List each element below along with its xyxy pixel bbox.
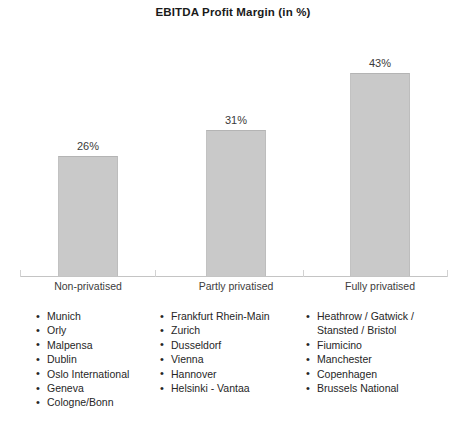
list-item: Oslo International <box>36 367 158 381</box>
list-item: Heathrow / Gatwick / Stansted / Bristol <box>306 309 454 338</box>
bar-group-partly-privatised: 31% <box>162 26 310 276</box>
x-axis-tick <box>303 270 304 277</box>
list-item: Vienna <box>160 352 302 366</box>
airport-list-fully-privatised: Heathrow / Gatwick / Stansted / Bristol … <box>306 309 454 433</box>
plot-area: 26% 31% 43% <box>0 26 466 276</box>
list-item: Munich <box>36 309 158 323</box>
x-axis-line <box>20 276 448 277</box>
list-item: Frankfurt Rhein-Main <box>160 309 302 323</box>
category-label-partly-privatised: Partly privatised <box>162 280 310 292</box>
bar-non-privatised[interactable] <box>58 156 118 276</box>
list-item: Malpensa <box>36 338 158 352</box>
category-label-fully-privatised: Fully privatised <box>306 280 454 292</box>
x-axis-tick <box>155 270 156 277</box>
list-item: Orly <box>36 323 158 337</box>
bar-group-non-privatised: 26% <box>14 26 162 276</box>
bullet-list: Frankfurt Rhein-Main Zurich Dusseldorf V… <box>160 309 302 395</box>
list-item: Geneva <box>36 381 158 395</box>
list-item: Fiumicino <box>306 338 454 352</box>
bar-partly-privatised[interactable] <box>206 130 266 276</box>
list-item: Manchester <box>306 352 454 366</box>
bar-value-label: 26% <box>48 140 128 152</box>
bar-value-label: 31% <box>196 114 276 126</box>
list-item: Copenhagen <box>306 367 454 381</box>
list-item: Cologne/Bonn <box>36 395 158 409</box>
airport-list-partly-privatised: Frankfurt Rhein-Main Zurich Dusseldorf V… <box>160 309 302 433</box>
list-item: Dublin <box>36 352 158 366</box>
airport-lists: Munich Orly Malpensa Dublin Oslo Interna… <box>0 309 466 433</box>
bar-group-fully-privatised: 43% <box>306 26 454 276</box>
x-axis-tick <box>447 270 448 277</box>
list-item: Hannover <box>160 367 302 381</box>
category-label-non-privatised: Non-privatised <box>14 280 162 292</box>
x-axis-tick-labels: Non-privatised Partly privatised Fully p… <box>0 280 466 300</box>
bullet-list: Heathrow / Gatwick / Stansted / Bristol … <box>306 309 454 395</box>
bar-value-label: 43% <box>340 57 420 69</box>
bar-fully-privatised[interactable] <box>350 73 410 276</box>
chart-title: EBITDA Profit Margin (in %) <box>0 6 466 18</box>
bullet-list: Munich Orly Malpensa Dublin Oslo Interna… <box>36 309 158 410</box>
x-axis-tick <box>20 270 21 277</box>
list-item: Dusseldorf <box>160 338 302 352</box>
chart-figure: EBITDA Profit Margin (in %) 26% 31% 43% … <box>0 0 466 433</box>
list-item: Zurich <box>160 323 302 337</box>
list-item: Brussels National <box>306 381 454 395</box>
airport-list-non-privatised: Munich Orly Malpensa Dublin Oslo Interna… <box>36 309 158 433</box>
list-item: Helsinki - Vantaa <box>160 381 302 395</box>
